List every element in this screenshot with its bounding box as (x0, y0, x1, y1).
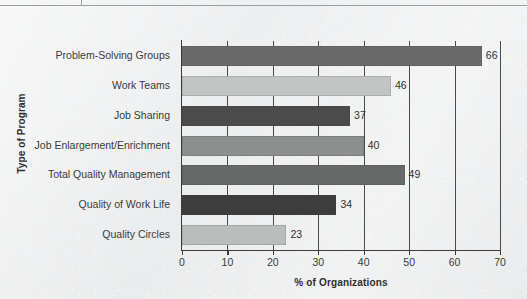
bar-value-label: 66 (486, 49, 498, 61)
x-axis-tick (364, 250, 365, 255)
x-axis-tick (500, 250, 501, 255)
x-axis-tick (273, 250, 274, 255)
x-axis-tick-label: 50 (396, 256, 422, 268)
x-axis-tick-label: 40 (351, 256, 377, 268)
x-axis-tick-label: 60 (442, 256, 468, 268)
bar-value-label: 40 (368, 139, 380, 151)
bar (182, 46, 482, 66)
gridline (409, 41, 410, 250)
gridline (500, 41, 501, 250)
bar (182, 165, 405, 185)
x-axis-tick (182, 250, 183, 255)
x-axis-tick-label: 0 (169, 256, 195, 268)
x-axis-tick-label: 70 (487, 256, 513, 268)
category-label: Quality Circles (102, 228, 170, 240)
category-label: Total Quality Management (48, 168, 170, 180)
x-axis-tick-label: 10 (214, 256, 240, 268)
x-axis-line (181, 250, 501, 251)
category-label: Job Enlargement/Enrichment (35, 139, 170, 151)
bar (182, 106, 350, 126)
plot-area: 66463740493423 (182, 41, 500, 250)
bar (182, 195, 336, 215)
category-label: Problem-Solving Groups (56, 49, 170, 61)
x-axis-tick (227, 250, 228, 255)
category-label: Work Teams (112, 79, 170, 91)
x-axis-tick-label: 20 (260, 256, 286, 268)
gridline (364, 41, 365, 250)
bar (182, 76, 391, 96)
category-label: Quality of Work Life (79, 198, 170, 210)
x-axis-tick (455, 250, 456, 255)
bar-value-label: 23 (290, 228, 302, 240)
category-label-list: Problem-Solving GroupsWork TeamsJob Shar… (0, 0, 176, 299)
bar-value-label: 37 (354, 109, 366, 121)
x-axis-tick (318, 250, 319, 255)
x-axis-tick-label: 30 (305, 256, 331, 268)
x-axis-title: % of Organizations (182, 277, 500, 288)
bar-value-label: 46 (395, 79, 407, 91)
bar (182, 136, 364, 156)
bar-chart-figure: Type of Program Problem-Solving GroupsWo… (0, 0, 527, 299)
x-axis-tick (409, 250, 410, 255)
gridline (455, 41, 456, 250)
bar-value-label: 49 (409, 168, 421, 180)
bar (182, 225, 286, 245)
bar-value-label: 34 (340, 198, 352, 210)
category-label: Job Sharing (114, 109, 170, 121)
